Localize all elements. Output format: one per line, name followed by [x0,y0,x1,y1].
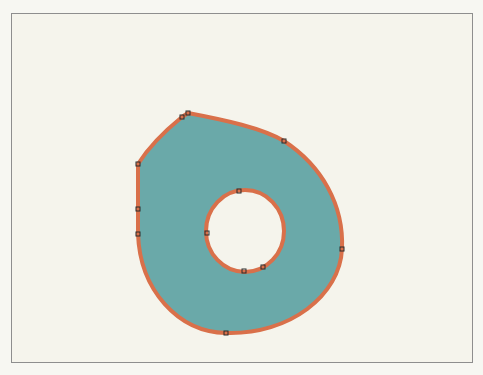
vector-drawing[interactable] [0,0,483,375]
drawing-canvas[interactable] [0,0,483,375]
donut-drop-shape[interactable] [138,113,342,333]
